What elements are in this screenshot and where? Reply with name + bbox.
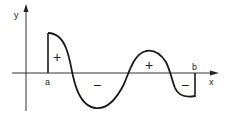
signed-area-diagram: y x a b + − + − — [0, 0, 228, 117]
x-axis-arrow-icon — [210, 71, 219, 76]
bound-a-label: a — [45, 77, 50, 87]
y-axis-arrow-icon — [24, 4, 29, 12]
region-sign-2: − — [93, 77, 101, 93]
bound-b-label: b — [192, 62, 197, 72]
function-curve — [48, 33, 195, 108]
x-axis — [12, 71, 219, 76]
region-sign-1: + — [53, 49, 61, 65]
x-axis-label: x — [209, 77, 214, 87]
region-sign-3: + — [145, 57, 153, 73]
y-axis — [24, 4, 29, 111]
region-sign-4: − — [181, 77, 189, 93]
y-axis-label: y — [14, 10, 19, 20]
